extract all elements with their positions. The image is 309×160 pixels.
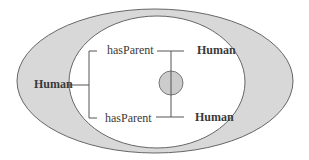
bottom-role-label: hasParent bbox=[105, 111, 152, 125]
top-role-label: hasParent bbox=[107, 43, 154, 57]
bottom-filler-label: Human bbox=[195, 110, 234, 124]
inner-ellipse bbox=[69, 16, 245, 148]
root-human-label: Human bbox=[34, 77, 73, 91]
top-filler-label: Human bbox=[197, 43, 236, 57]
diagram-canvas: Human hasParent hasParent Human Human bbox=[0, 0, 309, 160]
